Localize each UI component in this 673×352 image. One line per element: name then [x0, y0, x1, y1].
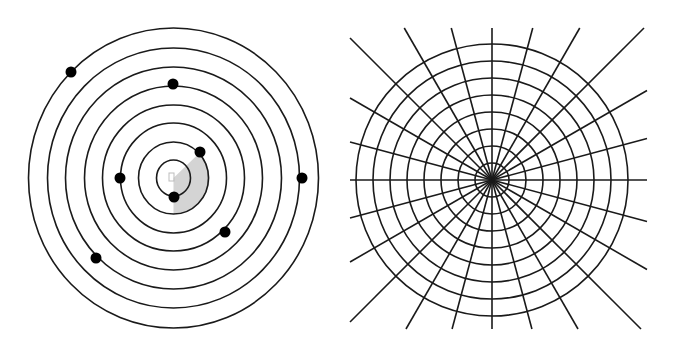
concentric-rings-diagram	[29, 28, 319, 328]
diagram-svg	[0, 0, 673, 352]
ring-dot-6	[91, 253, 102, 264]
ring-dot-1	[169, 192, 180, 203]
radial-line	[350, 98, 492, 180]
polar-grid-diagram	[350, 28, 647, 329]
radial-line	[350, 180, 492, 322]
radial-line	[451, 28, 492, 180]
ring-dot-7	[297, 173, 308, 184]
center-marker-square	[169, 173, 174, 181]
ring-dot-2	[195, 147, 206, 158]
radial-line	[406, 180, 492, 329]
figure-canvas	[0, 0, 673, 352]
ring-dot-8	[66, 67, 77, 78]
shaded-wedge	[174, 153, 210, 214]
radial-line	[492, 180, 641, 329]
radial-line	[350, 142, 492, 180]
ring-dot-4	[220, 227, 231, 238]
ring-dot-5	[168, 79, 179, 90]
radial-line	[492, 180, 532, 329]
radial-line	[492, 28, 644, 180]
radial-line	[350, 180, 492, 262]
radial-line	[350, 38, 492, 180]
radial-line	[452, 180, 492, 329]
radial-line	[492, 28, 533, 180]
radial-line	[492, 180, 578, 329]
ring-dot-3	[115, 173, 126, 184]
radial-line	[350, 180, 492, 218]
